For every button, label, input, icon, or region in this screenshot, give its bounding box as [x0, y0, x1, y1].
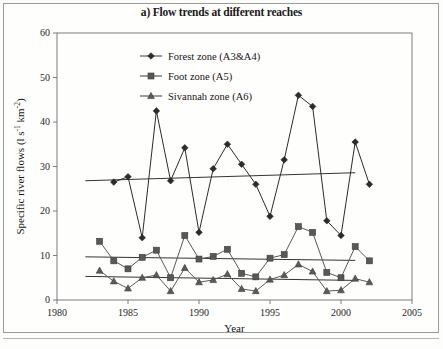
data-point-marker — [281, 271, 288, 277]
data-point-marker — [153, 108, 160, 115]
data-point-marker — [239, 270, 245, 276]
x-tick-label: 1985 — [118, 307, 138, 318]
data-point-marker — [309, 268, 316, 274]
data-point-marker — [148, 73, 154, 79]
data-point-marker — [196, 256, 202, 262]
data-point-marker — [96, 267, 103, 273]
data-point-marker — [352, 275, 359, 281]
legend-item-1: Foot zone (A5) — [140, 71, 233, 83]
x-tick-label: 2005 — [402, 307, 422, 318]
data-point-marker — [267, 255, 273, 261]
y-tick-label: 40 — [40, 116, 50, 127]
data-point-marker — [97, 238, 103, 244]
data-point-marker — [324, 269, 330, 275]
x-axis-title: Year — [224, 322, 245, 334]
data-point-marker — [224, 271, 231, 277]
chart-legend: Forest zone (A3&A4)Foot zone (A5)Sivanna… — [140, 51, 261, 103]
figure-page: a) Flow trends at different reaches 0102… — [0, 0, 443, 349]
legend-item-2: Sivannah zone (A6) — [140, 91, 252, 103]
data-point-marker — [338, 287, 345, 293]
y-tick-label: 20 — [40, 205, 50, 216]
y-axis-title: Specific river flows (l s-1 km-2) — [13, 98, 27, 235]
x-tick-label: 1995 — [260, 307, 280, 318]
y-tick-label: 60 — [40, 27, 50, 38]
data-point-marker — [338, 275, 344, 281]
data-point-marker — [153, 271, 160, 277]
data-point-marker — [182, 232, 188, 238]
data-point-marker — [148, 53, 155, 60]
data-point-marker — [352, 244, 358, 250]
flow-trends-chart: 0102030405060198019851990199520002005 Fo… — [0, 0, 443, 349]
data-point-marker — [111, 258, 117, 264]
data-point-marker — [281, 157, 288, 164]
y-tick-label: 0 — [45, 294, 50, 305]
data-point-marker — [182, 145, 189, 152]
data-point-marker — [196, 229, 203, 236]
data-point-marker — [110, 278, 117, 284]
data-point-marker — [253, 181, 260, 188]
data-point-marker — [295, 261, 302, 267]
data-point-marker — [210, 253, 216, 259]
y-tick-label: 50 — [40, 72, 50, 83]
data-series — [96, 92, 373, 294]
data-point-marker — [352, 139, 359, 146]
data-point-marker — [253, 274, 259, 280]
data-point-marker — [210, 165, 217, 172]
data-point-marker — [181, 264, 188, 270]
trend-line-1 — [85, 257, 355, 261]
legend-label: Forest zone (A3&A4) — [168, 51, 261, 63]
y-tick-label: 30 — [40, 161, 50, 172]
data-point-marker — [224, 246, 230, 252]
x-tick-label: 1980 — [47, 307, 67, 318]
data-point-marker — [125, 285, 132, 291]
trend-lines — [85, 173, 355, 281]
series-1 — [97, 224, 373, 281]
data-point-marker — [267, 213, 274, 220]
data-point-marker — [153, 247, 159, 253]
data-point-marker — [281, 252, 287, 258]
legend-label: Sivannah zone (A6) — [168, 91, 252, 103]
legend-label: Foot zone (A5) — [168, 71, 233, 83]
data-point-marker — [238, 161, 245, 168]
x-tick-label: 2000 — [331, 307, 351, 318]
data-point-marker — [168, 275, 174, 281]
data-point-marker — [139, 254, 145, 260]
series-0 — [111, 92, 373, 241]
data-point-marker — [366, 258, 372, 264]
data-point-marker — [125, 266, 131, 272]
data-point-marker — [310, 229, 316, 235]
x-tick-label: 1990 — [189, 307, 209, 318]
data-point-marker — [224, 141, 231, 148]
legend-item-0: Forest zone (A3&A4) — [140, 51, 261, 63]
data-point-marker — [295, 224, 301, 230]
data-point-marker — [139, 234, 146, 241]
data-point-marker — [366, 181, 373, 188]
y-tick-label: 10 — [40, 250, 50, 261]
